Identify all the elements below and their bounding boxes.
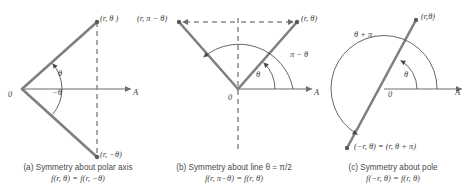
panel-b-caption-line1: (b) Symmetry about line θ = π/2 (152, 162, 316, 173)
panel-c-caption-equation: f(−r, θ) = f(r, θ) (316, 173, 470, 184)
panel-a-angle-negative-theta-label: −θ (52, 88, 62, 97)
panel-c-point-lower-dot (345, 146, 349, 150)
panel-c-origin-label: 0 (388, 90, 392, 99)
panel-b-graphics (177, 18, 312, 152)
panel-a-caption-equation: f(r, θ) = f(r, −θ) (0, 173, 156, 184)
panel-b-angle-theta-label: θ (256, 70, 260, 79)
panel-c-arc-theta (401, 60, 418, 89)
panel-b-point-left-label: (r, π − θ) (137, 14, 167, 23)
panel-c-point-upper-label: (r,θ) (421, 12, 435, 21)
panel-a-point-upper-label: (r, θ ) (100, 14, 118, 23)
panel-c-point-upper-dot (414, 18, 418, 22)
panel-c-point-lower-label: (−r, θ) = (r, θ + π) (354, 142, 416, 151)
panel-a-caption: (a) Symmetry about polar axis f(r, θ) = … (0, 162, 156, 184)
panel-b-axis-label: A (314, 88, 319, 97)
panel-c-caption-line1: (c) Symmetry about pole (316, 162, 470, 173)
panel-a-origin-label: 0 (8, 90, 12, 99)
polar-symmetry-figure: (r, θ ) (r, −θ) 0 A θ −θ (r, π − θ) (r, … (0, 0, 470, 191)
panel-a-point-upper-dot (95, 20, 99, 24)
panel-c-arc-theta-plus-pi (331, 36, 437, 135)
panel-b-ray-right (238, 22, 297, 89)
panel-b-angle-pi-minus-theta-label: π − θ (290, 50, 308, 59)
panel-a-graphics (22, 20, 131, 159)
panel-a-caption-line1: (a) Symmetry about polar axis (0, 162, 156, 173)
panel-c-caption: (c) Symmetry about pole f(−r, θ) = f(r, … (316, 162, 470, 184)
panel-b-point-right-dot (295, 20, 299, 24)
panel-a-ray-upper (22, 22, 97, 89)
panel-c-angle-theta-plus-pi-label: θ + π (354, 30, 372, 39)
panel-b-caption-equation: f(r, π−θ) = f(r, θ) (152, 173, 316, 184)
panel-c-angle-theta-label: θ (404, 70, 408, 79)
panel-b-caption: (b) Symmetry about line θ = π/2 f(r, π−θ… (152, 162, 316, 184)
panel-a-point-lower-dot (95, 155, 99, 159)
panel-a-ray-lower (22, 89, 97, 157)
panel-b-point-right-label: (r, θ) (301, 14, 317, 23)
panel-b-point-left-dot (177, 20, 181, 24)
panel-b-ray-left (179, 22, 238, 89)
panel-b-arc-theta (264, 63, 276, 89)
panel-c-line-through-pole (347, 20, 416, 148)
panel-c-graphics (331, 18, 462, 150)
panel-c-axis-label: A (455, 88, 460, 97)
panel-a-angle-theta-label: θ (58, 69, 62, 78)
panel-b-origin-label: 0 (228, 93, 232, 102)
panel-a-point-lower-label: (r, −θ) (100, 150, 122, 159)
panel-a-axis-label: A (133, 88, 138, 97)
